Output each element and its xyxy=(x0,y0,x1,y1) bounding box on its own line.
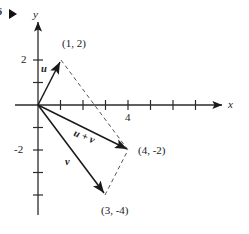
vector-addition-figure: 6 xyxy=(0,0,249,234)
vector-u-plus-v xyxy=(38,105,127,149)
point-label-u: (1, 2) xyxy=(62,38,86,49)
dashed-v-to-sum xyxy=(105,150,128,195)
point-label-v: (3, -4) xyxy=(101,205,129,216)
y-tick-label-2: 2 xyxy=(21,54,27,65)
vector-label-v: v xyxy=(65,157,70,168)
dashed-segments xyxy=(61,60,128,195)
vector-v xyxy=(38,105,104,193)
point-label-sum: (4, -2) xyxy=(138,145,166,156)
x-axis-label: x xyxy=(228,99,233,110)
x-tick-label-4: 4 xyxy=(125,112,131,123)
y-tick-label-neg2: -2 xyxy=(14,144,23,155)
y-axis-label: y xyxy=(33,9,38,20)
vector-label-u: u xyxy=(41,64,47,75)
